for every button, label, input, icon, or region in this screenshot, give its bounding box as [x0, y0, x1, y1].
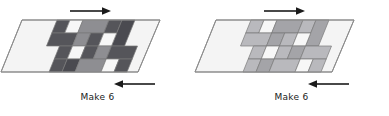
- bottom-arrow-left-icon: [114, 80, 155, 88]
- top-arrow-right-icon: [264, 7, 305, 15]
- unit-left-caption: Make 6: [0, 92, 195, 103]
- quilt-diagram-figure: Make 6 Make 6: [0, 0, 389, 116]
- bottom-arrow-left-icon: [308, 80, 349, 88]
- quilt-patch: [300, 46, 331, 59]
- unit-right-caption: Make 6: [194, 92, 389, 103]
- patch-grid: [47, 20, 138, 72]
- quilt-patch: [106, 46, 137, 59]
- patch-grid: [241, 20, 332, 72]
- top-arrow-right-icon: [70, 7, 111, 15]
- quilt-unit-left: Make 6: [0, 0, 195, 116]
- quilt-unit-right: Make 6: [194, 0, 389, 116]
